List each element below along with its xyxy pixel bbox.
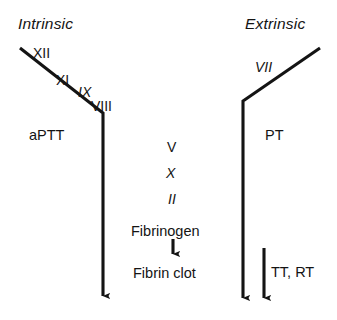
coagulation-cascade-diagram: Intrinsic Extrinsic XII XI IX VIII aPTT … <box>0 0 337 320</box>
assay-label-tt-rt: TT, RT <box>271 265 314 280</box>
extrinsic-pathway-line <box>243 48 320 298</box>
factor-label-xi: XI <box>56 73 69 87</box>
substrate-label-fibrinogen: Fibrinogen <box>131 224 200 239</box>
factor-label-ii: II <box>168 192 176 206</box>
intrinsic-heading: Intrinsic <box>18 16 73 32</box>
factor-label-x: X <box>166 166 175 180</box>
factor-label-v: V <box>167 140 176 154</box>
assay-label-aptt: aPTT <box>29 128 64 143</box>
assay-label-pt: PT <box>265 128 284 143</box>
factor-label-viii: VIII <box>91 99 112 113</box>
factor-label-ix: IX <box>78 85 91 99</box>
extrinsic-heading: Extrinsic <box>245 16 305 32</box>
product-label-fibrin-clot: Fibrin clot <box>133 266 196 281</box>
factor-label-xii: XII <box>33 46 50 60</box>
factor-label-vii: VII <box>255 60 272 74</box>
